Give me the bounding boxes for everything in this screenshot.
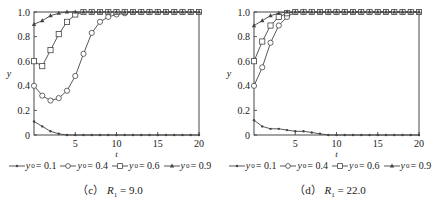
x-tick-label: 10 bbox=[112, 138, 122, 149]
series-square bbox=[31, 9, 201, 68]
square-marker-icon bbox=[48, 48, 53, 53]
dot-marker-icon bbox=[91, 134, 93, 136]
dot-marker-icon bbox=[157, 134, 159, 136]
dot-marker-icon bbox=[360, 134, 362, 136]
dot-marker-icon bbox=[261, 125, 263, 127]
dot-marker-icon bbox=[173, 134, 175, 136]
circle-marker-icon bbox=[81, 51, 86, 56]
x-axis-label: t bbox=[335, 149, 338, 159]
circle-marker-icon bbox=[56, 96, 61, 101]
square-marker-icon bbox=[56, 32, 61, 37]
circle-marker-icon bbox=[276, 23, 281, 28]
y-tick-label: 1.0 bbox=[238, 7, 251, 18]
circle-marker-icon bbox=[66, 163, 71, 168]
circle-marker-icon bbox=[64, 88, 69, 93]
square-marker-icon bbox=[251, 59, 256, 64]
chart-panel-c: 00.20.40.60.81.05101520ty y0 = 0.1y0 = 0… bbox=[0, 0, 220, 209]
caption-sub: 1 bbox=[114, 191, 118, 199]
dot-marker-icon bbox=[401, 134, 403, 136]
legend-item: y0 = 0.9 bbox=[164, 160, 212, 171]
square-marker-icon bbox=[276, 14, 281, 19]
legend-var: y bbox=[297, 160, 301, 171]
legend-value: = 0.1 bbox=[36, 160, 57, 171]
dot-marker-icon bbox=[253, 119, 255, 121]
dot-marker-icon bbox=[124, 134, 126, 136]
square-marker-icon bbox=[260, 39, 265, 44]
legend-item: y0 = 0.6 bbox=[332, 160, 380, 171]
caption-prefix: （c） bbox=[77, 184, 104, 196]
star-marker-icon bbox=[252, 23, 256, 27]
legend-item: y0 = 0.4 bbox=[60, 160, 108, 171]
dot-marker-icon bbox=[294, 130, 296, 132]
dot-marker-icon bbox=[302, 130, 304, 132]
plot-frame bbox=[34, 12, 199, 135]
plot-frame bbox=[254, 12, 419, 135]
y-tick-label: 1.0 bbox=[18, 7, 31, 18]
dot-marker-icon bbox=[190, 134, 192, 136]
legend-value: = 0.6 bbox=[139, 160, 160, 171]
y-axis-label: y bbox=[6, 68, 12, 79]
caption-prefix: （d） bbox=[294, 184, 322, 196]
legend-var: y bbox=[401, 160, 405, 171]
dot-marker-icon bbox=[99, 134, 101, 136]
dot-marker-icon bbox=[140, 134, 142, 136]
circle-marker-icon bbox=[40, 93, 45, 98]
legend-sub: 0 bbox=[406, 162, 410, 170]
dot-marker-icon bbox=[49, 130, 51, 132]
square-marker-icon bbox=[40, 64, 45, 69]
dot-marker-icon bbox=[286, 129, 288, 131]
dot-marker-icon bbox=[410, 134, 412, 136]
square-marker-icon bbox=[31, 59, 36, 64]
legend-d: y0 = 0.1y0 = 0.4y0 = 0.6y0 = 0.9 bbox=[220, 160, 440, 171]
dot-marker-icon bbox=[327, 134, 329, 136]
legend-item: y0 = 0.9 bbox=[384, 160, 432, 171]
dot-marker-icon bbox=[66, 134, 68, 136]
legend-value: = 0.6 bbox=[359, 160, 380, 171]
x-tick-label: 20 bbox=[194, 138, 204, 149]
circle-marker-icon bbox=[251, 83, 256, 88]
y-tick-label: 0.2 bbox=[18, 105, 31, 116]
dot-marker-icon bbox=[115, 134, 117, 136]
dot-marker-icon bbox=[319, 133, 321, 135]
dot-marker-icon bbox=[198, 134, 200, 136]
legend-value: = 0.1 bbox=[256, 160, 277, 171]
square-marker-icon bbox=[268, 23, 273, 28]
square-marker-icon bbox=[64, 19, 69, 24]
dot-marker-icon bbox=[33, 120, 35, 122]
caption-sub: 1 bbox=[331, 191, 335, 199]
dot-marker-icon bbox=[236, 164, 238, 166]
circle-marker-icon bbox=[73, 73, 78, 78]
caption-var: R bbox=[107, 184, 114, 196]
circle-marker-icon bbox=[89, 30, 94, 35]
x-axis-label: t bbox=[115, 149, 118, 159]
dot-marker-icon bbox=[352, 134, 354, 136]
line-chart-d: 00.20.40.60.81.05101520ty bbox=[220, 0, 440, 160]
circle-marker-icon bbox=[260, 65, 265, 70]
legend-sub: 0 bbox=[251, 162, 255, 170]
caption-value: = 22.0 bbox=[338, 184, 366, 196]
dot-marker-icon bbox=[107, 134, 109, 136]
x-tick-label: 5 bbox=[293, 138, 298, 149]
circle-marker-icon bbox=[286, 163, 291, 168]
y-tick-label: 0.8 bbox=[238, 31, 251, 42]
line-chart-c: 00.20.40.60.81.05101520ty bbox=[0, 0, 220, 160]
dot-marker-icon bbox=[269, 128, 271, 130]
legend-c: y0 = 0.1y0 = 0.4y0 = 0.6y0 = 0.9 bbox=[0, 160, 220, 171]
legend-value: = 0.4 bbox=[307, 160, 328, 171]
y-tick-label: 0 bbox=[25, 130, 30, 141]
legend-sub: 0 bbox=[186, 162, 190, 170]
y-axis-label: y bbox=[226, 68, 232, 79]
dot-marker-icon bbox=[16, 164, 18, 166]
y-tick-label: 0 bbox=[245, 130, 250, 141]
circle-marker-icon bbox=[106, 14, 111, 19]
dot-marker-icon bbox=[344, 134, 346, 136]
legend-item: y0 = 0.1 bbox=[229, 160, 277, 171]
y-tick-label: 0.4 bbox=[18, 80, 31, 91]
dot-marker-icon bbox=[58, 133, 60, 135]
legend-sub: 0 bbox=[83, 162, 87, 170]
series-square bbox=[251, 9, 421, 63]
circle-marker-icon bbox=[48, 98, 53, 103]
dot-marker-icon bbox=[74, 134, 76, 136]
legend-item: y0 = 0.6 bbox=[112, 160, 160, 171]
circle-marker-icon bbox=[97, 19, 102, 24]
